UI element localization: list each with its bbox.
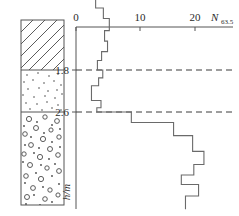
soil-layer-gravel — [21, 112, 64, 206]
plot-axes — [72, 27, 233, 209]
depth-marker-lines — [76, 70, 232, 112]
x-tick-label-0: 0 — [73, 11, 79, 23]
depth-label-2-6: 2.6 — [55, 106, 69, 118]
x-axis-title-subscript: 63.5 — [221, 18, 234, 26]
soil-layer-clay-fill — [21, 20, 64, 70]
x-tick-label-20: 20 — [190, 11, 202, 23]
penetration-step-curve — [91, 0, 203, 209]
borehole-penetration-figure: 0 10 20 1.8 2.6 N 63.5 h/m — [0, 0, 239, 216]
x-axis-title: N — [210, 11, 219, 23]
depth-label-1-8: 1.8 — [55, 64, 69, 76]
figure-svg: 0 10 20 1.8 2.6 N 63.5 h/m — [0, 0, 239, 216]
axis-titles: N 63.5 h/m — [60, 11, 234, 200]
x-tick-label-10: 10 — [135, 11, 147, 23]
y-axis-title: h/m — [60, 184, 72, 201]
